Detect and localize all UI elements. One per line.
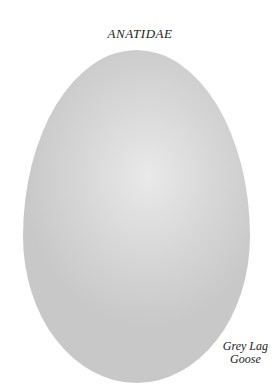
family-title: ANATIDAE xyxy=(0,26,280,42)
species-name-line2: Goose xyxy=(223,353,268,366)
egg-illustration xyxy=(23,50,250,383)
species-label: Grey Lag Goose xyxy=(223,340,268,366)
